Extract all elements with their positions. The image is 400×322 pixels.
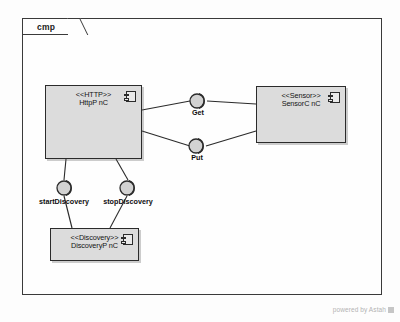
component-sensor[interactable]: <<Sensor>> SensorC nC: [256, 86, 346, 143]
component-discovery[interactable]: <<Discovery>> DiscoveryP nC: [50, 228, 139, 261]
component-icon: [123, 234, 133, 245]
component-http[interactable]: <<HTTP>> HttpP nC: [45, 85, 142, 159]
interface-label-put: Put: [177, 153, 217, 162]
watermark: powered by Astah: [333, 306, 394, 313]
component-icon: [126, 91, 136, 102]
diagram-frame-label: cmp: [23, 19, 69, 36]
component-icon: [330, 92, 340, 103]
interface-label-get: Get: [178, 108, 218, 117]
watermark-text: powered by Astah: [333, 306, 386, 313]
diagram-frame-tab: cmp: [22, 18, 68, 35]
port-label-stop-discovery: stopDiscovery: [91, 197, 165, 206]
watermark-logo-icon: [388, 307, 394, 313]
diagram-canvas: cmp: [0, 0, 400, 322]
